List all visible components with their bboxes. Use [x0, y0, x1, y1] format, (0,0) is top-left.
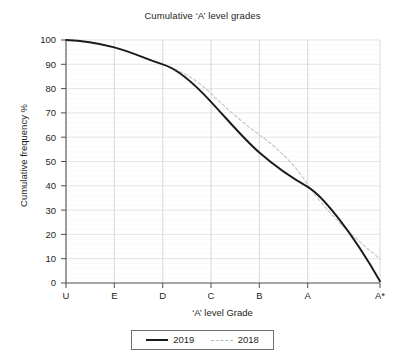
x-tick-label: U — [63, 290, 70, 301]
y-tick-label: 40 — [45, 180, 56, 191]
chart-legend: 2019 2018 — [131, 330, 274, 350]
legend-line-dashed-icon — [211, 340, 233, 341]
x-tick-label: C — [208, 290, 215, 301]
chart-figure: Cumulative ‘A’ level grades — [0, 0, 405, 363]
x-tick-label: A — [305, 290, 312, 301]
x-tick-label: A* — [375, 290, 385, 301]
y-tick-label: 10 — [45, 253, 56, 264]
y-tick-label: 100 — [40, 34, 56, 45]
x-tick-label: E — [111, 290, 117, 301]
y-tick-label: 70 — [45, 107, 56, 118]
x-axis-title: ‘A’ level Grade — [60, 307, 385, 318]
y-tick-label: 30 — [45, 205, 56, 216]
y-axis-ticks — [61, 40, 66, 283]
y-tick-label: 20 — [45, 229, 56, 240]
y-axis-title: Cumulative frequency % — [18, 56, 29, 256]
y-tick-label: 0 — [51, 277, 56, 288]
legend-entry-2018[interactable]: 2018 — [211, 335, 259, 345]
y-axis-tick-labels: 100 90 80 70 60 50 40 30 20 10 0 — [40, 34, 56, 288]
y-tick-label: 50 — [45, 156, 56, 167]
y-tick-label: 60 — [45, 132, 56, 143]
x-tick-label: B — [256, 290, 262, 301]
legend-label: 2018 — [238, 335, 259, 345]
x-tick-label: D — [159, 290, 166, 301]
legend-label: 2019 — [173, 335, 194, 345]
y-tick-label: 80 — [45, 83, 56, 94]
legend-entry-2019[interactable]: 2019 — [146, 335, 194, 345]
legend-line-solid-icon — [146, 339, 168, 341]
x-axis-tick-labels: U E D C B A A* — [63, 290, 386, 301]
x-axis-ticks — [66, 283, 380, 288]
y-tick-label: 90 — [45, 59, 56, 70]
